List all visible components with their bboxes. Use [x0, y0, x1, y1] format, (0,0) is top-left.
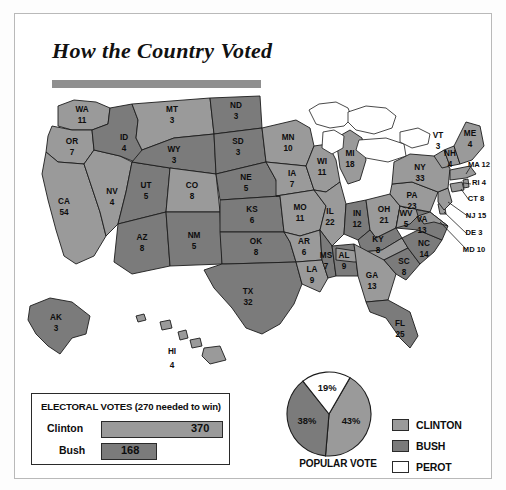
state-label-tx: TX: [243, 287, 254, 296]
state-label-ms: MS: [320, 251, 333, 260]
state-label-sc: SC: [398, 257, 409, 266]
state-label-il: IL: [326, 207, 333, 216]
state-label-in: IN: [353, 209, 361, 218]
state-label-ga: GA: [366, 271, 378, 280]
state-label-mt: MT: [166, 105, 178, 114]
state-votes-mn: 10: [283, 144, 293, 153]
state-votes-sd: 3: [236, 148, 241, 157]
popular-vote-caption: POPULAR VOTE: [286, 458, 390, 469]
callout-leader-line: [448, 202, 469, 217]
state-votes-ut: 5: [144, 192, 149, 201]
state-label-ca: CA: [58, 197, 70, 206]
state-label-ok: OK: [250, 237, 262, 246]
electoral-votes-panel: ELECTORAL VOTES (270 needed to win) Clin…: [31, 393, 230, 465]
state-votes-wv: 5: [404, 220, 409, 229]
state-label-wa: WA: [75, 105, 88, 114]
state-label-ar: AR: [298, 237, 310, 246]
map-legend: CLINTON BUSH PEROT: [392, 416, 462, 479]
state-label-co: CO: [186, 181, 199, 190]
legend-item-clinton: CLINTON: [392, 416, 462, 433]
state-votes-ca: 54: [59, 208, 69, 217]
infographic-page: How the Country Voted WA11OR7CA54NV4ID4M…: [0, 0, 506, 490]
state-label-sd: SD: [232, 137, 243, 146]
map-svg: WA11OR7CA54NV4ID4MT3WY3UT5AZ8CO8NM5ND3SD…: [14, 88, 492, 388]
state-label-va: VA: [417, 215, 428, 224]
state-votes-pa: 23: [407, 202, 417, 211]
state-label-ny: NY: [414, 163, 426, 172]
electoral-value-clinton: 370: [191, 422, 209, 434]
state-votes-ar: 6: [302, 248, 307, 257]
state-votes-ia: 7: [290, 180, 295, 189]
state-votes-sc: 8: [402, 268, 407, 277]
state-label-ne: NE: [240, 173, 252, 182]
state-label-or: OR: [66, 137, 78, 146]
state-votes-az: 8: [140, 244, 145, 253]
state-label-ks: KS: [246, 205, 258, 214]
state-hi: [178, 330, 188, 340]
state-label-me: ME: [464, 129, 477, 138]
electoral-row-label-bush: Bush: [59, 444, 85, 456]
callout-leader-line: [444, 212, 467, 234]
state-votes-al: 9: [342, 262, 347, 271]
state-label-nm: NM: [188, 231, 201, 240]
state-callout-ma: MA 12: [468, 160, 490, 169]
state-votes-or: 7: [70, 148, 75, 157]
electoral-row-label-clinton: Clinton: [47, 422, 83, 434]
state-label-la: LA: [307, 265, 318, 274]
state-label-mn: MN: [282, 133, 295, 142]
electoral-value-bush: 168: [121, 444, 139, 456]
state-hi: [202, 346, 226, 364]
state-mn: [262, 120, 314, 166]
state-callout-de: DE 3: [466, 228, 483, 237]
legend-item-perot: PEROT: [392, 458, 462, 475]
state-votes-nm: 5: [192, 242, 197, 251]
state-votes-mt: 3: [170, 116, 175, 125]
state-votes-in: 12: [352, 220, 362, 229]
legend-label-perot: PEROT: [416, 461, 452, 473]
state-label-ia: IA: [288, 169, 296, 178]
state-ak: [28, 298, 90, 354]
state-votes-ok: 8: [254, 248, 259, 257]
page-title: How the Country Voted: [52, 38, 273, 64]
state-votes-wi: 11: [318, 168, 327, 177]
state-label-nc: NC: [418, 239, 430, 248]
state-votes-ms: 7: [324, 262, 329, 271]
state-votes-mo: 11: [296, 214, 305, 223]
state-hi: [190, 338, 202, 348]
state-hi: [136, 314, 146, 322]
state-label-az: AZ: [137, 233, 148, 242]
state-co: [166, 168, 220, 212]
state-votes-id: 4: [122, 144, 127, 153]
state-votes-ks: 6: [250, 216, 255, 225]
state-label-fl: FL: [395, 319, 405, 328]
state-votes-nh: 4: [448, 160, 453, 169]
pie-label-clinton: 43%: [342, 415, 361, 426]
state-callout-ct: CT 8: [468, 194, 484, 203]
title-underline-rule: [52, 80, 261, 88]
pie-svg: 43%38%19%: [286, 371, 390, 457]
state-votes-fl: 25: [395, 330, 405, 339]
state-label-pa: PA: [407, 191, 418, 200]
state-label-ut: UT: [141, 181, 152, 190]
state-votes-ga: 13: [367, 282, 377, 291]
state-label-nh: NH: [444, 149, 456, 158]
state-votes-la: 9: [310, 276, 315, 285]
state-ks: [220, 196, 284, 232]
state-votes-me: 4: [468, 140, 473, 149]
state-votes-oh: 21: [379, 216, 389, 225]
electoral-row-clinton: Clinton 370: [41, 421, 223, 438]
state-votes-nd: 3: [234, 112, 239, 121]
electoral-map: WA11OR7CA54NV4ID4MT3WY3UT5AZ8CO8NM5ND3SD…: [14, 88, 492, 388]
state-label-nd: ND: [230, 101, 242, 110]
state-votes-mi: 18: [345, 160, 355, 169]
state-votes-va: 13: [417, 226, 427, 235]
state-label-wi: WI: [317, 157, 327, 166]
state-mo: [276, 190, 326, 236]
state-callout-nj: NJ 15: [466, 211, 487, 220]
state-votes-ak: 3: [54, 324, 59, 333]
state-votes-hi: 4: [170, 361, 175, 370]
state-label-oh: OH: [378, 205, 390, 214]
state-votes-wa: 11: [78, 116, 87, 125]
state-votes-wy: 3: [172, 156, 177, 165]
popular-vote-pie-chart: 43%38%19% POPULAR VOTE: [286, 371, 390, 475]
